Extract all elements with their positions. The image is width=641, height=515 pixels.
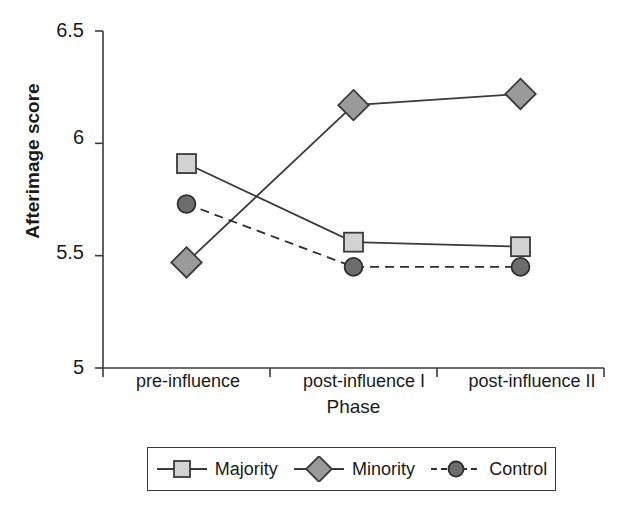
plot-area bbox=[0, 0, 641, 440]
circle-marker-icon bbox=[430, 456, 482, 482]
legend-item-control[interactable]: Control bbox=[430, 456, 547, 482]
legend-label: Control bbox=[489, 459, 547, 480]
square-marker-icon bbox=[177, 154, 196, 173]
circle-marker-icon bbox=[449, 461, 464, 476]
diamond-marker-icon bbox=[293, 456, 345, 482]
chart-figure: Afterimage score 6.5 6 5.5 5 pre-influen… bbox=[0, 0, 641, 515]
circle-marker-icon bbox=[178, 195, 196, 213]
series-majority bbox=[177, 154, 530, 256]
legend-label: Majority bbox=[215, 459, 278, 480]
legend-item-minority[interactable]: Minority bbox=[293, 456, 415, 482]
legend: MajorityMinorityControl bbox=[147, 447, 556, 491]
circle-marker-icon bbox=[512, 258, 530, 276]
square-marker-icon bbox=[511, 237, 530, 256]
legend-item-majority[interactable]: Majority bbox=[156, 456, 278, 482]
square-marker-icon bbox=[174, 461, 190, 477]
diamond-marker-icon bbox=[306, 456, 332, 482]
data-series-layer bbox=[171, 79, 535, 278]
square-marker-icon bbox=[344, 233, 363, 252]
legend-label: Minority bbox=[352, 459, 415, 480]
diamond-marker-icon bbox=[505, 79, 535, 109]
square-marker-icon bbox=[156, 456, 208, 482]
circle-marker-icon bbox=[345, 258, 363, 276]
axis-lines bbox=[95, 31, 604, 377]
